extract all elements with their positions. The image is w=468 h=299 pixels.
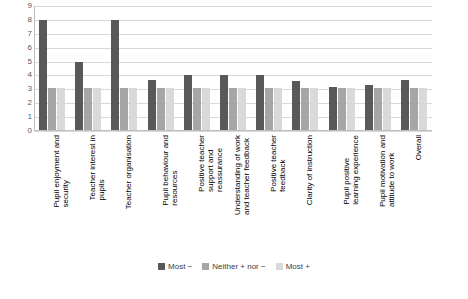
x-axis-tick-label: Overall — [414, 135, 423, 160]
bar — [383, 88, 391, 131]
y-axis-tick-label: 3 — [10, 85, 32, 93]
bar — [374, 88, 382, 131]
bar — [265, 88, 273, 131]
bar — [202, 88, 210, 131]
x-axis-label-cell: Positive teachersupport andreassurance — [179, 133, 215, 251]
plot-area — [34, 6, 432, 131]
bar — [57, 88, 65, 131]
y-axis-tick-label: 5 — [10, 58, 32, 66]
bar — [39, 20, 47, 131]
bar — [120, 88, 128, 131]
bar — [410, 88, 418, 131]
bar — [274, 88, 282, 131]
legend-item[interactable]: Neither + nor − — [202, 262, 265, 271]
legend: Most −Neither + nor −Most + — [0, 262, 468, 271]
bar — [256, 75, 264, 131]
legend-item[interactable]: Most + — [276, 262, 310, 271]
bar — [84, 88, 92, 131]
bar-group — [287, 6, 323, 131]
x-axis-tick-label: Pupil positivelearning experience — [342, 135, 360, 205]
x-axis-label-cell: Overall — [396, 133, 432, 251]
y-axis-tick-label: 2 — [10, 99, 32, 107]
legend-item[interactable]: Most − — [158, 262, 192, 271]
x-axis-label-cell: Teacher interest inpupils — [70, 133, 106, 251]
bar — [220, 75, 228, 131]
x-axis-tick-label: Pupil enjoyment andsecurity — [52, 135, 70, 208]
bar-group — [106, 6, 142, 131]
y-axis-tick-label: 0 — [10, 127, 32, 135]
x-axis-tick-label: Clarity of instruction — [305, 135, 314, 205]
bar — [301, 88, 309, 131]
bar-group — [396, 6, 432, 131]
y-axis-line — [34, 6, 35, 131]
x-axis-label-cell: Pupil positivelearning experience — [324, 133, 360, 251]
legend-label: Most − — [168, 262, 192, 271]
x-axis-label-cell: Pupil motivation andattitude to work — [360, 133, 396, 251]
bar-group — [179, 6, 215, 131]
x-axis-label-cell: Understanding of workand teacher feedbac… — [215, 133, 251, 251]
bar — [365, 85, 373, 131]
bar — [401, 80, 409, 131]
bar — [238, 88, 246, 131]
bar — [229, 88, 237, 131]
y-axis-tick-label: 4 — [10, 71, 32, 79]
x-axis-tick-label: Pupil behaviour andresources — [161, 135, 179, 206]
y-axis-tick-label: 8 — [10, 16, 32, 24]
y-axis-tick-label: 1 — [10, 113, 32, 121]
gridline — [34, 131, 432, 132]
legend-label: Most + — [286, 262, 310, 271]
legend-swatch — [158, 263, 165, 270]
bar — [48, 88, 56, 131]
x-axis-label-cell: Clarity of instruction — [287, 133, 323, 251]
x-axis-category-labels: Pupil enjoyment andsecurityTeacher inter… — [34, 133, 432, 251]
x-axis-tick-label: Positive teacherfeedback — [269, 135, 287, 192]
bar — [157, 88, 165, 131]
bar — [193, 88, 201, 131]
y-axis-tick-label: 7 — [10, 30, 32, 38]
bar — [75, 62, 83, 131]
legend-swatch — [202, 263, 209, 270]
bar — [93, 88, 101, 131]
bar-group — [251, 6, 287, 131]
bar-group — [34, 6, 70, 131]
bar — [129, 88, 137, 131]
x-axis-label-cell: Pupil enjoyment andsecurity — [34, 133, 70, 251]
bar — [419, 88, 427, 131]
bar-group — [70, 6, 106, 131]
bar — [111, 20, 119, 131]
bar-group — [324, 6, 360, 131]
x-axis-line — [34, 130, 432, 131]
legend-label: Neither + nor − — [212, 262, 265, 271]
bar-group — [215, 6, 251, 131]
x-axis-tick-label: Pupil motivation andattitude to work — [378, 135, 396, 207]
x-axis-label-cell: Positive teacherfeedback — [251, 133, 287, 251]
bar — [338, 88, 346, 131]
y-axis-tick-label: 6 — [10, 44, 32, 52]
bar — [184, 75, 192, 131]
bar-group — [143, 6, 179, 131]
x-axis-tick-label: Understanding of workand teacher feedbac… — [233, 135, 251, 215]
bar — [148, 80, 156, 131]
bar-group — [360, 6, 396, 131]
bar — [166, 88, 174, 131]
x-axis-label-cell: Teacher organisation — [106, 133, 142, 251]
bar — [292, 81, 300, 131]
y-axis-tick-label: 9 — [10, 2, 32, 10]
legend-swatch — [276, 263, 283, 270]
x-axis-label-cell: Pupil behaviour andresources — [143, 133, 179, 251]
bar-chart: 0123456789 Pupil enjoyment andsecurityTe… — [0, 0, 468, 299]
bar — [310, 88, 318, 131]
y-axis-tick-labels: 0123456789 — [10, 0, 32, 131]
bar — [329, 87, 337, 131]
bar-groups — [34, 6, 432, 131]
bar — [347, 88, 355, 131]
x-axis-tick-label: Teacher organisation — [124, 135, 133, 209]
x-axis-tick-label: Teacher interest inpupils — [88, 135, 106, 200]
